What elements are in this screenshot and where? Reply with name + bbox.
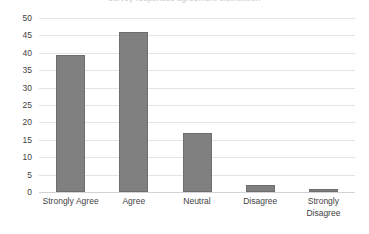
bar [246, 185, 275, 192]
x-axis-tick-label: Neutral [165, 196, 228, 208]
plot-area [39, 18, 355, 192]
x-axis-tick-label: Strongly Agree [39, 196, 102, 208]
y-axis-tick-label: 25 [6, 101, 32, 110]
y-axis-tick-label: 40 [6, 49, 32, 58]
y-axis-tick-label: 30 [6, 84, 32, 93]
y-axis-tick-label: 45 [6, 31, 32, 40]
x-axis-tick-label: Disagree [229, 196, 292, 208]
y-axis-tick-label: 0 [6, 188, 32, 197]
bar [183, 133, 212, 192]
y-axis-tick-label: 20 [6, 118, 32, 127]
bar [119, 32, 148, 192]
y-axis-tick-label: 10 [6, 153, 32, 162]
x-axis-tick-label: Agree [102, 196, 165, 208]
y-axis-tick-label: 50 [6, 14, 32, 23]
bar [56, 55, 85, 192]
y-axis-tick-label: 35 [6, 66, 32, 75]
y-axis-tick-label: 5 [6, 171, 32, 180]
x-axis-tick-labels: Strongly AgreeAgreeNeutralDisagreeStrong… [39, 196, 355, 234]
chart-title-clipped: survey responses agreement distribution [0, 0, 369, 5]
chart-title-text: survey responses agreement distribution [0, 0, 369, 5]
bars-layer [39, 18, 355, 192]
gridline [39, 192, 355, 193]
bar [309, 189, 338, 192]
bar-chart-figure: survey responses agreement distribution … [0, 0, 369, 234]
x-axis-tick-label: Strongly Disagree [292, 196, 355, 219]
y-axis-tick-label: 15 [6, 136, 32, 145]
